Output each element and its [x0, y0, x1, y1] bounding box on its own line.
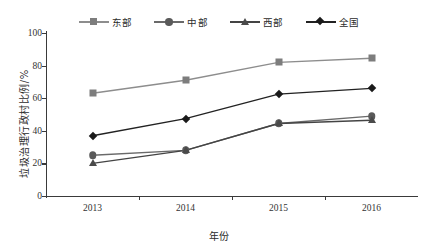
circle-marker-icon [165, 18, 173, 26]
y-tick-label: 40 [33, 126, 43, 136]
data-point-西部-2015 [275, 120, 283, 126]
data-point-全国-2013 [90, 133, 96, 139]
legend-key-全国 [306, 16, 336, 28]
data-point-东部-2016 [368, 55, 375, 62]
x-tick-label: 2013 [83, 203, 102, 213]
legend-marker [241, 18, 249, 25]
triangle-marker-icon [89, 159, 97, 166]
data-point-东部-2015 [275, 59, 282, 66]
legend-key-中部 [154, 16, 184, 28]
diamond-marker-icon [315, 17, 323, 25]
y-tick-mark [42, 196, 46, 197]
data-point-中部-2013 [89, 152, 97, 160]
x-axis-title: 年份 [0, 228, 438, 243]
diamond-marker-icon [367, 84, 375, 92]
series-lines [46, 33, 418, 196]
square-marker-icon [275, 59, 282, 66]
legend-label: 东部 [112, 15, 133, 29]
data-point-东部-2014 [182, 77, 189, 84]
legend-item-东部[interactable]: 东部 [79, 15, 133, 29]
legend-item-中部[interactable]: 中部 [154, 15, 208, 29]
legend-label: 中部 [187, 15, 208, 29]
diamond-marker-icon [274, 90, 282, 98]
square-marker-icon [89, 90, 96, 97]
square-marker-icon [182, 77, 189, 84]
y-tick-label: 20 [33, 158, 43, 168]
legend-marker [317, 18, 323, 24]
diamond-marker-icon [181, 114, 189, 122]
legend-label: 全国 [339, 15, 360, 29]
data-point-全国-2014 [183, 116, 189, 122]
legend-item-西部[interactable]: 西部 [230, 15, 284, 29]
circle-marker-icon [89, 152, 97, 160]
triangle-marker-icon [182, 146, 190, 153]
x-tick-label: 2016 [362, 203, 381, 213]
x-tick-mark [232, 196, 233, 200]
series-line-东部 [93, 58, 372, 93]
data-point-全国-2015 [276, 91, 282, 97]
series-line-全国 [93, 88, 372, 135]
line-chart: 东部中部西部全国 垃圾治理行政村比例/% 020406080100 201320… [0, 0, 438, 252]
triangle-marker-icon [368, 116, 376, 123]
legend-label: 西部 [263, 15, 284, 29]
legend-key-西部 [230, 16, 260, 28]
y-tick-label: 100 [28, 28, 42, 38]
x-tick-mark [325, 196, 326, 200]
square-marker-icon [368, 55, 375, 62]
data-point-东部-2013 [89, 90, 96, 97]
triangle-marker-icon [241, 18, 249, 25]
legend-marker [165, 18, 173, 26]
data-point-西部-2016 [368, 117, 376, 123]
y-axis-title: 垃圾治理行政村比例/% [16, 49, 31, 199]
y-tick-label: 60 [33, 93, 43, 103]
x-tick-label: 2015 [269, 203, 288, 213]
series-line-西部 [93, 120, 372, 163]
data-point-西部-2014 [182, 147, 190, 153]
legend-item-全国[interactable]: 全国 [306, 15, 360, 29]
y-tick-label: 80 [33, 61, 43, 71]
plot-area: 020406080100 2013201420152016 [46, 33, 418, 196]
y-tick-label: 0 [37, 191, 42, 201]
data-point-西部-2013 [89, 160, 97, 166]
legend-marker [90, 18, 97, 25]
square-marker-icon [90, 18, 97, 25]
x-tick-mark [139, 196, 140, 200]
data-point-全国-2016 [369, 85, 375, 91]
x-tick-label: 2014 [176, 203, 195, 213]
chart-legend: 东部中部西部全国 [0, 11, 438, 33]
triangle-marker-icon [275, 119, 283, 126]
diamond-marker-icon [88, 131, 96, 139]
legend-key-东部 [79, 16, 109, 28]
